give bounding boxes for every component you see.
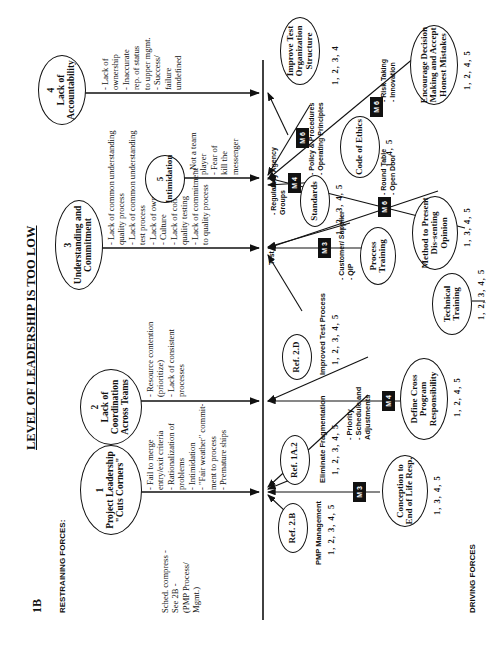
restraining-force-5: 5 Intimidation (145, 155, 185, 203)
ref-2b-nums: 1, 2, 3, 4, 5 (326, 504, 336, 555)
conception-to-end-of-life: Conception to End of Life Resp. (382, 455, 428, 527)
side-note: Sched. compress - See 2B - (PMP Process/… (160, 550, 202, 613)
m-label: M 3 (318, 238, 331, 258)
decision-nums: 1, 2, 4, 5 (462, 50, 472, 90)
restraining-force-4: 4 Lack of Accountability (38, 55, 86, 125)
force-4-items: - Lack of ownership - Inaccurate rep. of… (100, 37, 184, 90)
technical-training-nums: 1, 2, 3, 4, 5 (476, 269, 486, 320)
ref-2d: Ref. 2.D (282, 334, 312, 380)
cross-program-notes: - Priority - Schedule and Adjustments (345, 387, 372, 440)
m-label: M 3 (353, 482, 366, 502)
ref-2b-caption: PMP Management (314, 501, 323, 565)
force-field-diagram: 1B RESTRAINING FORCES: LEVEL OF LEADERSH… (0, 0, 500, 665)
ref-1a2-nums: 1, 2, 3, 4, 5 (330, 424, 340, 475)
restraining-force-3: 3 Understanding and Commitment (55, 200, 103, 290)
test-org-nums: 1, 2, 3, 4 (330, 45, 340, 85)
m-label: M 6 (378, 197, 391, 217)
restraining-forces-label: RESTRAINING FORCES: (58, 520, 67, 613)
diagram-title: LEVEL OF LEADERSHIP IS TOO LOW (24, 226, 39, 451)
ref-1a2-caption: Eliminate Fragmentation (318, 395, 327, 483)
encourage-decision-making: Encourage Decision Making and Accept Hon… (410, 25, 458, 105)
ref-2b: Ref. 2.B (278, 503, 308, 553)
conception-nums: 1, 3, 4, 5 (432, 475, 442, 515)
driving-forces-label: DRIVING FORCES (468, 544, 477, 613)
force-name: Lack of Accountability (57, 56, 77, 124)
ref-1a2: Ref. 1A.2 (280, 435, 310, 485)
m-label: M 4 (288, 173, 301, 193)
force-2-items: - Resource contention (prioritize) - Lac… (145, 322, 187, 397)
ref-2d-caption: Improved Test Process (318, 293, 327, 375)
decision-notes: - Risk Taking - Innovation (380, 59, 397, 102)
force-name: Project Leadership "Cuts Corners" (106, 446, 126, 534)
ethics-notes: - Policy & Procedures - Operating Princi… (308, 102, 325, 175)
force-name: Understanding and Commitment (74, 201, 94, 289)
method-to-present-dissenting-opinion: Method to Present Dis-senting Opinion (412, 196, 458, 270)
cross-program-nums: 1, 2, 4, 5 (452, 377, 462, 417)
force-5-items: - Not a team player - Fear of kill the m… (188, 132, 240, 175)
process-training: Process Training (360, 227, 396, 285)
code-of-ethics: Code of Ethics (340, 116, 380, 178)
dissent-nums: 1, 3, 4, 5 (462, 207, 472, 247)
restraining-force-1: 1 Project Leadership "Cuts Corners" (80, 445, 142, 535)
standards-notes: - Regulatory Agency Groups (270, 147, 287, 215)
improve-test-organization-structure: Improve Test Organization Structure (280, 17, 320, 85)
force-name: Intimidation (165, 155, 174, 204)
force-name: Lack of Coordination Across Teams (101, 370, 131, 444)
standards: Standards (300, 175, 330, 227)
technical-training: Technical Training (432, 273, 472, 335)
ref-2d-nums: 1, 2, 3, 4, 5 (330, 314, 340, 365)
standards-nums: 1, 2, 3, 4, 5 (334, 184, 344, 235)
m-label: M 4 (382, 391, 395, 411)
restraining-force-2: 2 Lack of Coordination Across Teams (80, 369, 142, 445)
page-id: 1B (30, 599, 45, 613)
test-label: Test (268, 251, 277, 265)
define-cross-program-responsibility: Define Cross Program Responsibility (400, 358, 448, 440)
force-1-items: - Fail to merge entry/exit criteria - Ra… (145, 404, 229, 490)
ethics-nums: 1, 4, 5 (384, 139, 394, 167)
